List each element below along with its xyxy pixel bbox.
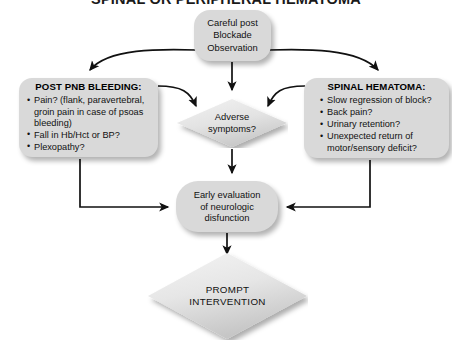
left-bullet-1-cont-2: bleeding) (34, 118, 150, 129)
right-bullet-4-text: Unexpected return of (327, 131, 413, 141)
node-mid-line-3: disfunction (184, 212, 270, 224)
connector-right-to-evaluation (287, 160, 370, 207)
node-mid-text: Early evaluation of neurologic disfuncti… (184, 189, 270, 224)
node-top-line-2: Blockade (202, 29, 263, 41)
node-top-text: Careful post Blockade Observation (202, 17, 263, 54)
diamond-shape-adverse (176, 98, 288, 148)
list-item: Unexpected return of motor/sensory defic… (320, 131, 441, 154)
node-mid-inner: Early evaluation of neurologic disfuncti… (176, 189, 278, 224)
node-right-inner: SPINAL HEMATOMA: Slow regression of bloc… (304, 81, 449, 154)
node-top-inner: Careful post Blockade Observation (194, 17, 271, 54)
connector-top-to-left (90, 50, 196, 70)
node-mid-line-2: of neurologic (184, 201, 270, 213)
flowchart-canvas: SPINAL OR PERIPHERAL HEMATOMA (0, 0, 452, 343)
node-left-inner: POST PNB BLEEDING: Pain? (flank, paraver… (19, 81, 158, 154)
left-panel-bullet-list: Pain? (flank, paravertebral, groin pain … (27, 95, 150, 153)
left-bullet-2-text: Fall in Hb/Hct or BP? (34, 130, 120, 140)
list-item: Fall in Hb/Hct or BP? (27, 130, 150, 141)
left-bullet-1-cont-1: groin pain in case of psoas (34, 107, 150, 118)
left-bullet-3-text: Plexopathy? (34, 142, 85, 152)
node-adverse-symptoms-decision[interactable]: Adverse symptoms? (176, 98, 288, 148)
right-bullet-2-text: Back pain? (327, 107, 372, 117)
node-prompt-intervention[interactable]: PROMPT INTERVENTION (147, 252, 308, 340)
right-panel-bullet-list: Slow regression of block? Back pain? Uri… (312, 95, 441, 154)
node-post-pnb-bleeding[interactable]: POST PNB BLEEDING: Pain? (flank, paraver… (19, 78, 158, 157)
list-item: Pain? (flank, paravertebral, groin pain … (27, 95, 150, 129)
diamond-shape-outcome (147, 252, 308, 340)
connector-top-to-right (269, 50, 378, 70)
list-item: Urinary retention? (320, 119, 441, 130)
list-item: Back pain? (320, 107, 441, 118)
right-bullet-4-cont-1: motor/sensory deficit? (327, 143, 441, 154)
node-mid-line-1: Early evaluation (184, 189, 270, 201)
left-panel-heading: POST PNB BLEEDING: (27, 81, 150, 92)
left-bullet-1-text: Pain? (flank, paravertebral, (34, 95, 144, 105)
node-careful-post-blockade-observation[interactable]: Careful post Blockade Observation (194, 10, 271, 61)
list-item: Slow regression of block? (320, 95, 441, 106)
node-early-evaluation[interactable]: Early evaluation of neurologic disfuncti… (176, 181, 278, 232)
node-top-line-3: Observation (202, 42, 263, 54)
right-bullet-3-text: Urinary retention? (327, 119, 400, 129)
right-bullet-1-text: Slow regression of block? (327, 95, 432, 105)
connector-left-to-evaluation (80, 159, 168, 207)
list-item: Plexopathy? (27, 142, 150, 153)
node-top-line-1: Careful post (202, 17, 263, 29)
node-spinal-hematoma[interactable]: SPINAL HEMATOMA: Slow regression of bloc… (304, 78, 449, 158)
right-panel-heading: SPINAL HEMATOMA: (312, 81, 441, 92)
